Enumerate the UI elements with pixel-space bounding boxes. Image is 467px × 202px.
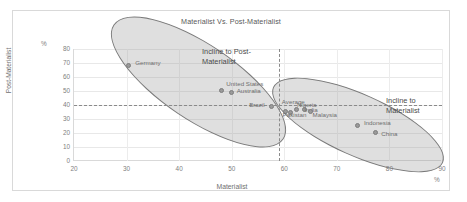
data-label-china: China: [381, 130, 397, 137]
x-axis-title: Materialist: [13, 183, 451, 190]
data-label-malaysia: Malaysia: [313, 111, 337, 118]
data-label-united-states: United States: [226, 80, 263, 87]
y-tick-label: 80: [48, 45, 70, 52]
x-tick-label: 40: [166, 165, 192, 172]
gridline-horizontal: [74, 77, 442, 78]
y-tick-label: 30: [48, 115, 70, 122]
x-tick-label: 60: [271, 165, 297, 172]
data-label-brazil: Brazil: [249, 101, 264, 108]
plot-area: 01020304050607080 2030405060708090 Germa…: [73, 49, 441, 161]
x-tick-label: 20: [61, 165, 87, 172]
y-tick-label: 0: [48, 157, 70, 164]
data-point-united-states[interactable]: [219, 88, 224, 93]
y-tick-label: 20: [48, 129, 70, 136]
x-tick-label: 30: [114, 165, 140, 172]
chart-container: Materialist Vs. Post-Materialist % % Pos…: [12, 10, 450, 191]
data-label-australia: Australia: [237, 87, 261, 94]
gridline-vertical: [442, 49, 443, 161]
data-point-china[interactable]: [373, 130, 378, 135]
x-axis-unit: %: [434, 176, 440, 183]
y-tick-label: 60: [48, 73, 70, 80]
y-tick-label: 10: [48, 143, 70, 150]
chart-title: Materialist Vs. Post-Materialist: [13, 17, 449, 26]
y-tick-label: 70: [48, 59, 70, 66]
x-tick-label: 70: [324, 165, 350, 172]
y-tick-label: 40: [48, 101, 70, 108]
data-point-germany[interactable]: [126, 63, 131, 68]
data-label-pakistan: Pakistan: [283, 111, 307, 118]
data-label-indonesia: Indonesia: [364, 119, 391, 126]
average-materialist-line: [279, 49, 280, 161]
incline-materialist-annotation: Incline to Materialist: [386, 96, 420, 115]
y-axis-title: Post-Materialist: [5, 16, 12, 126]
data-label-germany: Germany: [135, 59, 160, 66]
y-axis-unit: %: [41, 40, 47, 47]
y-tick-label: 50: [48, 87, 70, 94]
data-point-brazil[interactable]: [269, 104, 274, 109]
x-tick-label: 50: [219, 165, 245, 172]
incline-post-materialist-annotation: Incline to Post- Materialist: [202, 47, 251, 66]
